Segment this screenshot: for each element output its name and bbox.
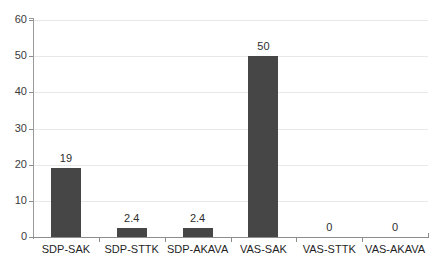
y-axis-tick-label-text: 30 (3, 123, 27, 134)
x-axis-end-cap (428, 233, 429, 238)
y-axis-line (33, 18, 34, 239)
bar (51, 168, 81, 237)
x-axis-tick-mark (99, 238, 100, 242)
bar-value-label: 2.4 (107, 213, 157, 224)
y-axis-tick-label: 60 (0, 14, 27, 25)
bar (248, 56, 278, 237)
y-axis-tick-label: 50 (0, 50, 27, 61)
y-axis-tick-label-text: 0 (3, 231, 27, 242)
y-axis-tick-label: 0 (0, 231, 27, 242)
y-axis-tick-label-text: 20 (3, 159, 27, 170)
y-axis-tick-label-text: 50 (3, 50, 27, 61)
y-axis-tick-label: 30 (0, 123, 27, 134)
bar-value-label: 0 (304, 222, 354, 233)
y-axis-tick-label-text: 40 (3, 86, 27, 97)
y-axis-top-cap (29, 18, 34, 19)
y-axis-tick-mark (29, 165, 33, 166)
y-axis-tick-mark (29, 129, 33, 130)
y-axis-tick-mark (29, 92, 33, 93)
bar-value-label: 2.4 (173, 213, 223, 224)
bar (117, 228, 147, 237)
bar-value-label: 0 (370, 222, 420, 233)
y-axis-tick-mark (29, 56, 33, 57)
gridline (33, 201, 428, 202)
y-axis-tick-mark (29, 20, 33, 21)
bar-chart: 0102030405060 SDP-SAKSDP-STTKSDP-AKAVAVA… (0, 0, 440, 269)
y-axis-tick-label: 20 (0, 159, 27, 170)
y-axis-tick-label: 10 (0, 195, 27, 206)
gridline (33, 165, 428, 166)
x-axis-tick-mark (231, 238, 232, 242)
x-axis-category-label: VAS-SAK (231, 243, 297, 255)
bar (183, 228, 213, 237)
y-axis-tick-mark (29, 237, 33, 238)
gridline (33, 129, 428, 130)
gridline (33, 56, 428, 57)
bar-value-label: 19 (41, 153, 91, 164)
plot-area (33, 20, 428, 237)
x-axis-tick-mark (296, 238, 297, 242)
x-axis-category-label: SDP-SAK (33, 243, 99, 255)
bar-value-label: 50 (238, 41, 288, 52)
x-axis-category-label: VAS-AKAVA (362, 243, 428, 255)
y-axis-tick-label-text: 60 (3, 14, 27, 25)
y-axis-tick-label: 40 (0, 86, 27, 97)
y-axis-tick-mark (29, 201, 33, 202)
x-axis-tick-mark (165, 238, 166, 242)
y-axis-tick-label-text: 10 (3, 195, 27, 206)
gridline (33, 20, 428, 21)
x-axis-tick-mark (362, 238, 363, 242)
gridline (33, 92, 428, 93)
x-axis-category-label: SDP-AKAVA (165, 243, 231, 255)
x-axis-category-label: VAS-STTK (296, 243, 362, 255)
x-axis-category-label: SDP-STTK (99, 243, 165, 255)
